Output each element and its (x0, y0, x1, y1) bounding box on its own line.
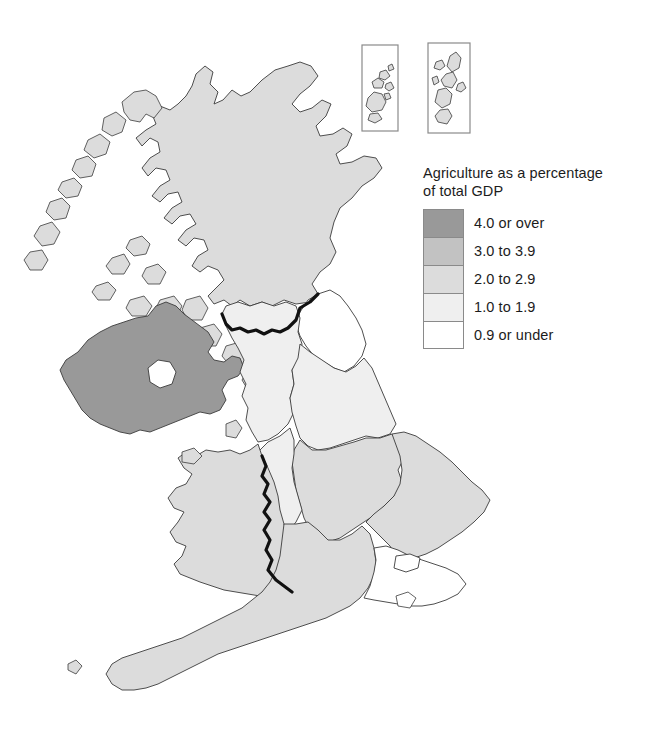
legend-swatch (423, 209, 464, 237)
legend-title: Agriculture as a percentageof total GDP (423, 164, 659, 200)
legend-swatch (423, 293, 464, 321)
legend-row: 4.0 or over (423, 209, 659, 237)
legend-row: 3.0 to 3.9 (423, 237, 659, 265)
legend-swatch (423, 265, 464, 293)
legend-label: 3.0 to 3.9 (474, 243, 535, 259)
legend-label: 0.9 or under (474, 327, 553, 343)
map-figure: .reg { stroke:#3b3b3b; stroke-width:0.9;… (0, 0, 664, 754)
legend-swatch (423, 321, 464, 349)
map-legend: Agriculture as a percentageof total GDP … (423, 164, 659, 349)
uk-choropleth-map: .reg { stroke:#3b3b3b; stroke-width:0.9;… (0, 0, 664, 754)
legend-label: 2.0 to 2.9 (474, 271, 535, 287)
legend-row: 0.9 or under (423, 321, 659, 349)
legend-items: 4.0 or over 3.0 to 3.9 2.0 to 2.9 1.0 to… (423, 209, 659, 349)
legend-row: 1.0 to 1.9 (423, 293, 659, 321)
shetland-islands-inset (428, 43, 470, 133)
isle-of-man (226, 420, 242, 438)
orkney-islands-inset (362, 45, 398, 131)
legend-label: 4.0 or over (474, 215, 544, 231)
isles-of-scilly (68, 660, 82, 674)
legend-row: 2.0 to 2.9 (423, 265, 659, 293)
region-northern-ireland (60, 302, 244, 434)
legend-swatch (423, 237, 464, 265)
legend-label: 1.0 to 1.9 (474, 299, 535, 315)
